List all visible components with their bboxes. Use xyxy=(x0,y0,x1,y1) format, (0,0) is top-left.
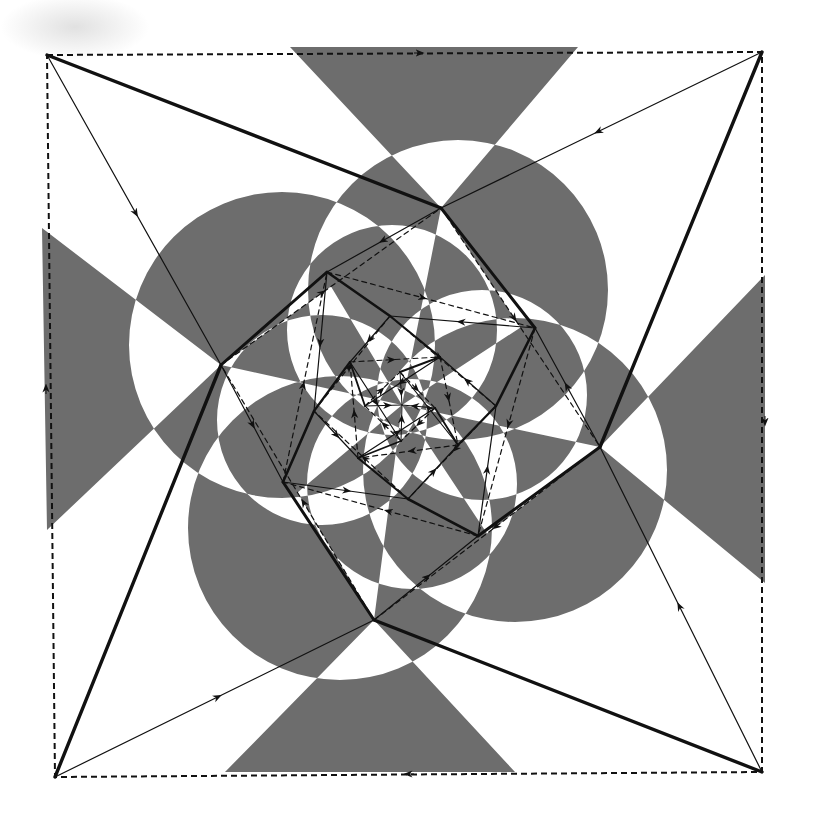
spiral-diagram xyxy=(0,0,813,829)
shaded-pattern xyxy=(42,47,765,772)
center-converging-line xyxy=(365,405,402,406)
diagram-canvas xyxy=(0,0,813,829)
shaded-regions xyxy=(42,47,765,772)
